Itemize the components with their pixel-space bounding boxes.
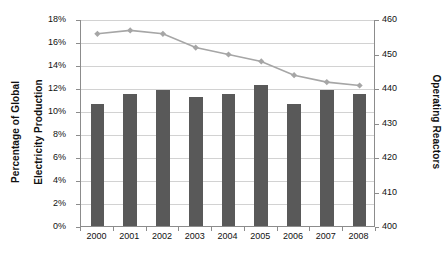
y-axis-right-tickmark xyxy=(375,193,379,194)
x-axis-tickmark xyxy=(113,227,114,231)
y-axis-left-tickmark xyxy=(76,204,80,205)
y-axis-left-tick-label: 8% xyxy=(26,129,66,139)
x-axis-tickmark xyxy=(146,227,147,231)
y-axis-left-tick-label: 6% xyxy=(26,152,66,162)
line-marker-2008 xyxy=(356,82,362,88)
line-marker-2002 xyxy=(160,31,166,37)
y-axis-right-tickmark xyxy=(375,55,379,56)
y-axis-right-tick-label: 460 xyxy=(382,14,422,24)
x-axis-tickmark xyxy=(178,227,179,231)
y-axis-left-tick-label: 10% xyxy=(26,106,66,116)
y-axis-right-title: Operating Reactors xyxy=(430,47,442,197)
y-axis-left-tickmark xyxy=(76,135,80,136)
y-axis-right-tick-label: 410 xyxy=(382,187,422,197)
line-series xyxy=(81,20,376,227)
y-axis-left-tick-label: 4% xyxy=(26,175,66,185)
chart-container: Percentage of Global Electricity Product… xyxy=(0,0,448,255)
y-axis-left-tick-label: 14% xyxy=(26,60,66,70)
y-axis-left-tick-label: 12% xyxy=(26,83,66,93)
y-axis-left-tickmark xyxy=(76,43,80,44)
y-axis-left-tickmark xyxy=(76,181,80,182)
plot-area xyxy=(80,20,375,227)
x-axis-tickmark xyxy=(277,227,278,231)
line-marker-2007 xyxy=(324,79,330,85)
line-marker-2000 xyxy=(94,31,100,37)
x-axis-tickmark xyxy=(342,227,343,231)
y-axis-left-tick-label: 0% xyxy=(26,221,66,231)
line-marker-2006 xyxy=(291,72,297,78)
y-axis-right-tick-label: 440 xyxy=(382,83,422,93)
y-axis-left-tickmark xyxy=(76,20,80,21)
x-axis-tickmark xyxy=(80,227,81,231)
y-axis-left-title-line1: Percentage of Global xyxy=(10,81,21,183)
y-axis-left-tick-label: 2% xyxy=(26,198,66,208)
line-marker-2005 xyxy=(258,58,264,64)
line-marker-2003 xyxy=(193,44,199,50)
y-axis-left-tick-label: 16% xyxy=(26,37,66,47)
y-axis-right-tick-label: 420 xyxy=(382,152,422,162)
y-axis-left-tickmark xyxy=(76,158,80,159)
y-axis-right-tickmark xyxy=(375,158,379,159)
x-axis-tickmark xyxy=(244,227,245,231)
y-axis-left-tickmark xyxy=(76,66,80,67)
line-marker-2004 xyxy=(225,51,231,57)
y-axis-right-tickmark xyxy=(375,89,379,90)
x-axis-tickmark xyxy=(309,227,310,231)
y-axis-left-tick-label: 18% xyxy=(26,14,66,24)
y-axis-right-tick-label: 450 xyxy=(382,49,422,59)
y-axis-right-tick-label: 400 xyxy=(382,221,422,231)
y-axis-right-tickmark xyxy=(375,20,379,21)
y-axis-left-tickmark xyxy=(76,89,80,90)
y-axis-right-tickmark xyxy=(375,124,379,125)
x-axis-tickmark xyxy=(211,227,212,231)
line-path xyxy=(97,30,359,85)
y-axis-left-tickmark xyxy=(76,112,80,113)
x-axis-tick-label-2008: 2008 xyxy=(339,231,379,241)
line-marker-2001 xyxy=(127,27,133,33)
x-axis-tickmark xyxy=(375,227,376,231)
y-axis-right-tick-label: 430 xyxy=(382,118,422,128)
